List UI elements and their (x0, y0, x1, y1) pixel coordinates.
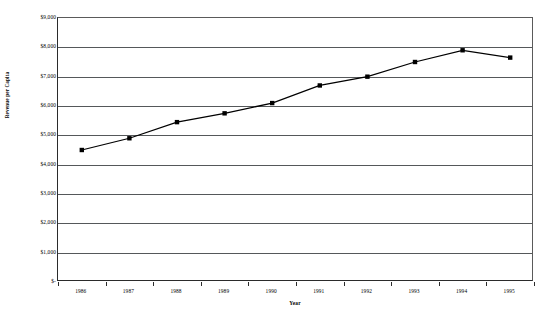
x-tick-label: 1994 (442, 288, 482, 295)
data-series-line (58, 18, 534, 282)
data-point-marker (460, 48, 464, 52)
data-point-marker (127, 136, 131, 140)
x-tick-label: 1991 (299, 288, 339, 295)
data-point-marker (413, 60, 417, 64)
series-line (82, 50, 510, 150)
y-tick-label: $4,000 (18, 161, 56, 167)
x-axis-tick (201, 282, 202, 286)
x-tick-label: 1993 (394, 288, 434, 295)
data-point-marker (508, 55, 512, 59)
x-tick-label: 1988 (156, 288, 196, 295)
x-tick-label: 1989 (204, 288, 244, 295)
y-tick-label: $- (18, 278, 56, 284)
x-axis-title: Year (57, 299, 533, 307)
data-point-marker (270, 101, 274, 105)
y-tick-label: $9,000 (18, 14, 56, 20)
x-axis-tick (296, 282, 297, 286)
y-axis-tick-labels: $-$1,000$2,000$3,000$4,000$5,000$6,000$7… (18, 0, 56, 318)
y-tick-label: $2,000 (18, 219, 56, 225)
data-point-marker (318, 83, 322, 87)
data-point-marker (80, 148, 84, 152)
x-tick-label: 1990 (251, 288, 291, 295)
y-tick-label: $5,000 (18, 131, 56, 137)
y-axis-title: Revenue per Capita (0, 50, 14, 140)
data-point-marker (365, 74, 369, 78)
x-tick-label: 1987 (108, 288, 148, 295)
x-axis-tick (439, 282, 440, 286)
y-tick-label: $8,000 (18, 43, 56, 49)
x-axis-tick (486, 282, 487, 286)
x-axis-tick (153, 282, 154, 286)
x-tick-label: 1995 (489, 288, 529, 295)
data-point-marker (175, 120, 179, 124)
x-axis-tick (344, 282, 345, 286)
y-tick-label: $3,000 (18, 190, 56, 196)
x-axis-tick (58, 282, 59, 286)
x-axis-tick (391, 282, 392, 286)
x-axis-tick (106, 282, 107, 286)
revenue-per-capita-line-chart: Revenue per Capita $-$1,000$2,000$3,000$… (0, 0, 552, 318)
x-tick-label: 1992 (346, 288, 386, 295)
x-axis-tick (534, 282, 535, 286)
y-tick-label: $6,000 (18, 102, 56, 108)
y-tick-label: $7,000 (18, 73, 56, 79)
x-axis-tick (248, 282, 249, 286)
x-tick-label: 1986 (61, 288, 101, 295)
y-tick-label: $1,000 (18, 249, 56, 255)
plot-area (57, 17, 533, 281)
data-point-marker (222, 111, 226, 115)
